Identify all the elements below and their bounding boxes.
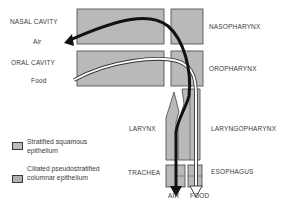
label-food-out: FOOD [190,191,209,200]
legend-item-stratified: Stratified squamous epithelium [27,137,87,155]
nasopharynx-block [171,9,203,44]
tissue-blocks [77,9,203,187]
label-oral-cavity: ORAL CAVITY [11,58,55,67]
oral-cavity-block [77,51,164,86]
label-air-in: Air [33,37,41,46]
label-nasal-cavity: NASAL CAVITY [10,17,58,26]
legend-swatch-stratified [12,142,23,150]
label-nasopharynx: NASOPHARYNX [209,22,260,31]
label-oropharynx: OROPHARYNX [209,64,257,73]
label-larynx: LARYNX [129,124,156,133]
label-trachea: TRACHEA [128,168,160,177]
label-food-in: Food [31,76,46,85]
label-air-out: AIR [168,191,179,200]
label-esophagus: ESOPHAGUS [211,167,254,176]
legend-swatch-ciliated [12,175,23,183]
legend-item-ciliated: Ciliated pseudostratified columnar epith… [27,164,100,182]
nasal-cavity-block [77,9,164,44]
label-laryngopharynx: LARYNGOPHARYNX [211,124,276,133]
air-arrowhead-nasal [64,34,74,46]
